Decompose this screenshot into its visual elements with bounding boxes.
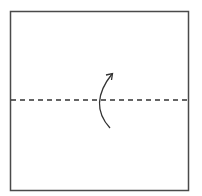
origami-diagram [0,0,202,196]
